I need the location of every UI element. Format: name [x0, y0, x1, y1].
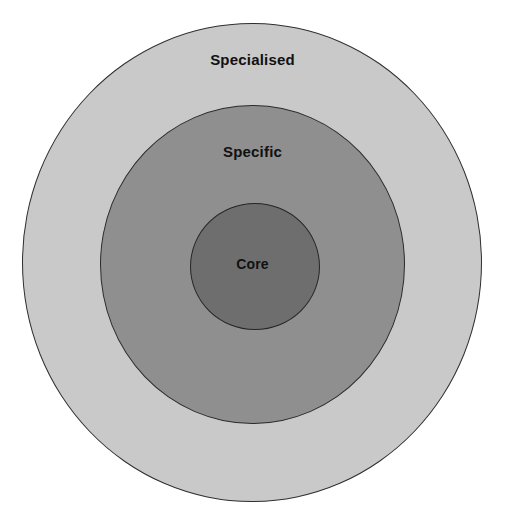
ring-label-specific: Specific: [0, 143, 505, 160]
clipped-caption: [8, 515, 428, 523]
ring-label-specialised: Specialised: [0, 51, 505, 68]
concentric-circles-diagram: Specialised Specific Core: [0, 0, 505, 523]
ring-label-core: Core: [0, 256, 505, 272]
